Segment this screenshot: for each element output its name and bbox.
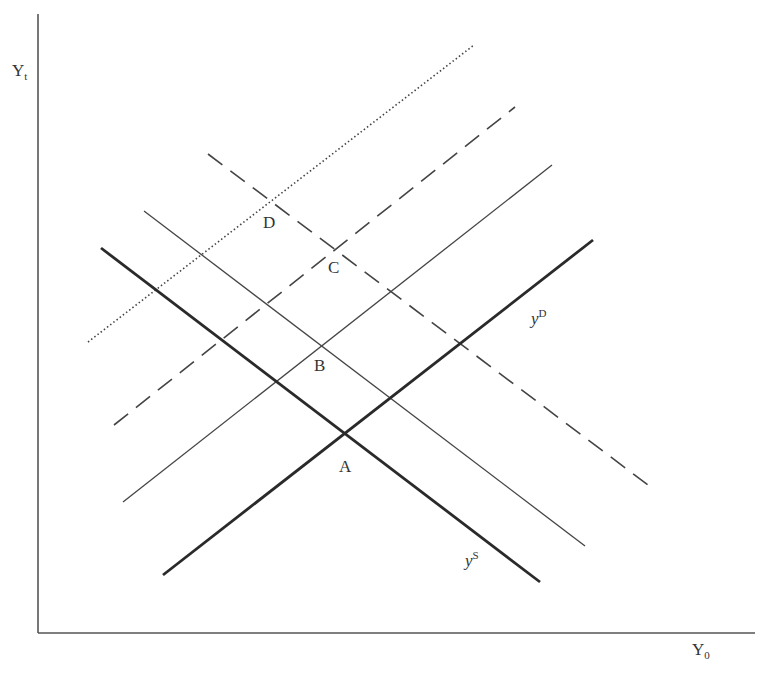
yd-demand-line	[163, 240, 593, 575]
point-c-label: C	[328, 259, 339, 276]
thin-upward-line	[123, 165, 552, 502]
ys-label: yS	[465, 550, 479, 569]
yd-label-sup: D	[539, 307, 547, 319]
ys-label-sup: S	[473, 549, 479, 561]
x-axis-label-sub: 0	[704, 649, 710, 661]
yd-label-base: y	[531, 309, 539, 328]
dashed-downward-line	[208, 154, 652, 488]
y-axis-label-base: Y	[12, 61, 24, 80]
y-axis-label: Yt	[12, 62, 27, 82]
thin-downward-line	[144, 211, 585, 546]
dotted-upward-line	[88, 45, 474, 342]
ys-supply-line	[101, 248, 540, 582]
point-d-label: D	[263, 214, 275, 231]
x-axis-label-base: Υ	[692, 640, 704, 659]
x-axis-label: Υ0	[692, 641, 710, 661]
dashed-upward-line	[114, 107, 515, 425]
ys-label-base: y	[465, 551, 473, 570]
point-a-label: A	[339, 458, 351, 475]
diagram-canvas	[0, 0, 773, 679]
point-b-label: B	[314, 357, 325, 374]
y-axis-label-sub: t	[24, 70, 27, 82]
yd-label: yD	[531, 308, 547, 327]
